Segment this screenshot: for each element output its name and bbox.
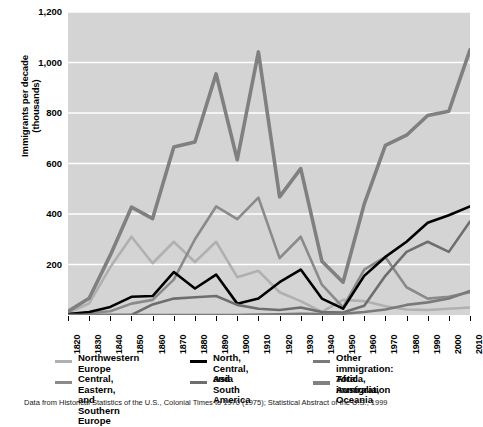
legend-swatch-icon: [313, 360, 330, 363]
x-tick-label-1910: 1910: [262, 314, 272, 354]
x-tick-mark-1970: [385, 316, 386, 321]
x-tick-label-1970: 1970: [389, 314, 399, 354]
x-tick-label-1880: 1880: [199, 314, 209, 354]
x-tick-mark-1820: [68, 316, 69, 321]
x-tick-label-1990: 1990: [432, 314, 442, 354]
x-tick-mark-1920: [280, 316, 281, 321]
legend-swatch-icon: [55, 381, 72, 384]
x-tick-label-2000: 2000: [453, 314, 463, 354]
x-tick-label-1890: 1890: [220, 314, 230, 354]
x-tick-mark-1860: [153, 316, 154, 321]
x-tick-mark-1940: [322, 316, 323, 321]
x-tick-label-1940: 1940: [326, 314, 336, 354]
x-tick-mark-1980: [407, 316, 408, 321]
source-caption: Data from Historical Statistics of the U…: [24, 398, 483, 407]
x-tick-mark-1960: [364, 316, 365, 321]
series-line-3: [68, 222, 470, 315]
x-tick-label-1960: 1960: [368, 314, 378, 354]
x-tick-label-1830: 1830: [93, 314, 103, 354]
legend-swatch-icon: [190, 381, 207, 384]
x-tick-mark-1840: [110, 316, 111, 321]
legend-swatch-icon: [55, 360, 72, 363]
x-tick-label-1860: 1860: [157, 314, 167, 354]
series-line-0: [68, 237, 470, 313]
x-tick-mark-1900: [237, 316, 238, 321]
x-tick-label-1950: 1950: [347, 314, 357, 354]
x-tick-mark-1870: [174, 316, 175, 321]
series-line-2: [68, 206, 470, 314]
x-tick-label-1840: 1840: [114, 314, 124, 354]
x-tick-mark-1880: [195, 316, 196, 321]
series-canvas: [68, 12, 470, 315]
x-tick-label-1980: 1980: [411, 314, 421, 354]
legend-swatch-icon: [190, 360, 207, 363]
series-line-4: [68, 291, 470, 315]
x-tick-mark-1950: [343, 316, 344, 321]
y-tick-label-400: 400: [24, 209, 62, 219]
legend-label: Northwestern Europe: [78, 353, 139, 374]
x-tick-label-1870: 1870: [178, 314, 188, 354]
y-tick-label-600: 600: [24, 159, 62, 169]
x-tick-label-1900: 1900: [241, 314, 251, 354]
x-tick-label-1920: 1920: [284, 314, 294, 354]
series-line-5: [68, 50, 470, 312]
x-tick-mark-1850: [131, 316, 132, 321]
y-tick-label-1200: 1,200: [24, 7, 62, 17]
chart-legend: Northwestern EuropeCentral, Eastern, and…: [0, 355, 483, 397]
x-tick-mark-2010: [470, 316, 471, 321]
plot-area: [68, 12, 470, 315]
x-tick-mark-1910: [258, 316, 259, 321]
y-tick-label-1000: 1,000: [24, 58, 62, 68]
x-tick-mark-2000: [449, 316, 450, 321]
x-tick-label-1820: 1820: [72, 314, 82, 354]
x-tick-label-1850: 1850: [135, 314, 145, 354]
x-tick-mark-1890: [216, 316, 217, 321]
legend-label: Asia: [213, 374, 233, 385]
y-tick-label-800: 800: [24, 108, 62, 118]
x-tick-label-1930: 1930: [305, 314, 315, 354]
x-tick-label-2010: 2010: [474, 314, 483, 354]
x-tick-mark-1930: [301, 316, 302, 321]
x-tick-mark-1830: [89, 316, 90, 321]
y-tick-label-200: 200: [24, 260, 62, 270]
legend-swatch-icon: [313, 381, 330, 385]
y-axis-tick-labels: 2004006008001,0001,200: [22, 0, 62, 330]
x-tick-mark-1990: [428, 316, 429, 321]
legend-label: Total immigration: [336, 374, 390, 395]
